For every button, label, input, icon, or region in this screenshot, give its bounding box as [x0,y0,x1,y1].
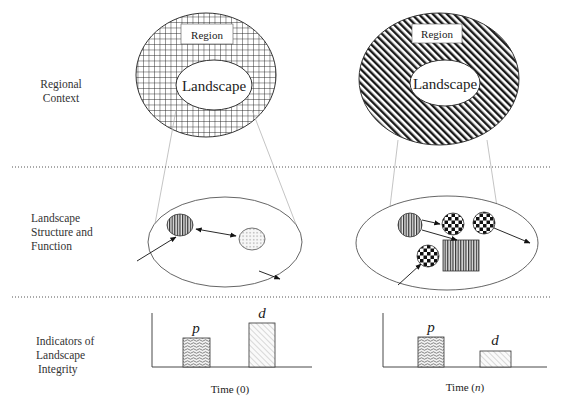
patch-checker [473,212,495,234]
diagram-canvas: Region Landscape Region Landscape [0,0,563,406]
landscape-structure-timen [356,196,538,290]
patch-striped [167,214,193,236]
landscape-structure-time0 [137,197,302,287]
bar-label-d: d [491,332,499,348]
bar-d [249,323,275,367]
patch-checker [417,245,439,267]
x-axis-label: Time (n) [446,381,485,394]
bar-label-p: p [191,320,200,336]
region-label: Region [421,28,453,40]
bar-label-p: p [426,319,435,335]
indicator-chart-timen: p d Time (n) [383,313,547,394]
patch-striped [398,213,422,237]
bar-label-d: d [258,305,266,321]
bar-p [183,338,210,367]
bar-d [480,351,511,367]
indicator-chart-time0: p d Time (0) [152,305,312,396]
bar-p [418,337,444,367]
patch-checker [442,213,464,235]
landscape-label: Landscape [413,76,477,92]
region-ellipse-timen: Region Landscape [359,13,519,145]
region-label: Region [191,29,223,41]
landscape-label: Landscape [182,78,246,94]
x-axis-label: Time (0) [211,383,250,396]
patch-dotted [239,228,265,250]
patch-striped-block [443,240,479,271]
